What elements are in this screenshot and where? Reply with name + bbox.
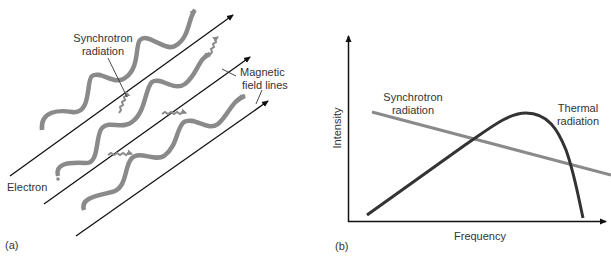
y-axis-label: Intensity	[331, 107, 343, 148]
electron-label: Electron	[7, 181, 47, 193]
panel-b-chart: Synchrotron radiation Thermal radiation …	[331, 36, 611, 252]
synchrotron-label-a: radiation	[82, 45, 124, 57]
panel-a-label: (a)	[5, 239, 18, 251]
synchrotron-label-a: Synchrotron	[73, 32, 132, 44]
synchrotron-wave-icon	[162, 112, 186, 114]
figure-canvas: Synchrotron radiation Magnetic field lin…	[0, 0, 611, 264]
magnetic-field-label: field lines	[242, 79, 288, 91]
x-axis-label: Frequency	[454, 230, 506, 242]
synchrotron-label-b: Synchrotron	[383, 91, 442, 103]
synchrotron-label-b: radiation	[392, 104, 434, 116]
panel-b-label: (b)	[335, 240, 348, 252]
panel-a-diagram: Synchrotron radiation Magnetic field lin…	[5, 10, 288, 251]
magnetic-leader-line	[256, 90, 262, 104]
magnetic-field-line	[44, 57, 250, 204]
magnetic-field-label: Magnetic	[240, 66, 285, 78]
magnetic-field-line	[76, 101, 268, 236]
thermal-curve	[367, 113, 583, 218]
electron-start-dot	[56, 177, 60, 181]
thermal-label: radiation	[557, 115, 599, 127]
synchrotron-wave-icon	[108, 153, 132, 155]
synchrotron-wave-icon	[210, 37, 218, 55]
thermal-label: Thermal	[558, 102, 598, 114]
